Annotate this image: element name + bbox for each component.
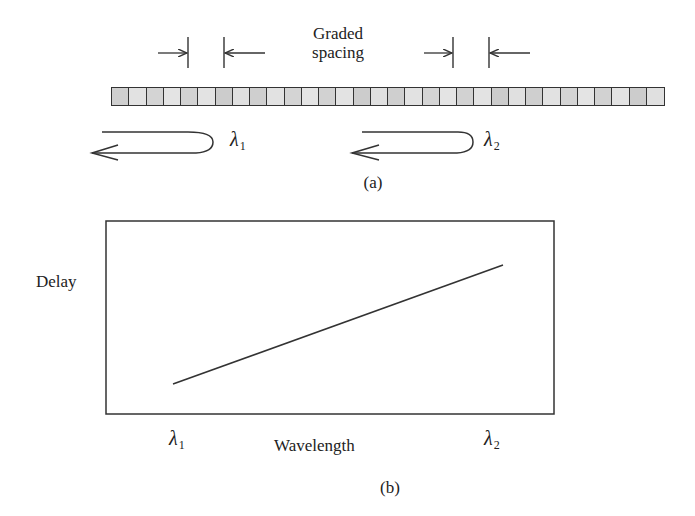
x-tick-lambda-1: λ1 [169, 427, 185, 453]
caption-a: (a) [353, 174, 393, 192]
x-axis-label: Wavelength [274, 437, 355, 455]
spacing-marker-left [158, 37, 265, 68]
delay-line [173, 265, 503, 384]
reflection-arrow-1 [92, 132, 213, 153]
caption-b: (b) [370, 479, 410, 497]
lambda-1-label: λ1 [230, 128, 246, 154]
x-tick-lambda-2: λ2 [484, 427, 500, 453]
plot-frame [106, 221, 554, 414]
lambda-2-label: λ2 [484, 128, 500, 154]
y-axis-label: Delay [36, 273, 77, 291]
reflection-arrow-2 [352, 132, 473, 153]
spacing-marker-right [424, 37, 530, 68]
